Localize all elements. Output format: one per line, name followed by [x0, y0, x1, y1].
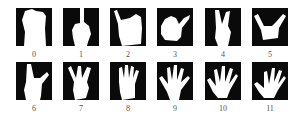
gesture-7	[63, 62, 99, 100]
gesture-label: 10	[205, 105, 241, 113]
gesture-label: 8	[110, 105, 146, 113]
gesture-3	[157, 8, 193, 46]
gesture-0	[16, 8, 52, 46]
hand-open-tilted-icon	[252, 62, 288, 100]
hand-thumb-pinky-icon	[252, 8, 288, 46]
gesture-label: 6	[16, 105, 52, 113]
gesture-1	[63, 8, 99, 46]
gesture-9	[157, 62, 193, 100]
gesture-label: 2	[110, 51, 146, 59]
hand-thumb-angled-icon	[110, 8, 146, 46]
gesture-8	[110, 62, 146, 100]
hand-three-fingers-icon	[63, 62, 99, 100]
gesture-label: 1	[63, 51, 99, 59]
gesture-2	[110, 8, 146, 46]
hand-open-spread-icon	[205, 62, 241, 100]
gesture-label: 0	[16, 51, 52, 59]
hand-fist-icon	[16, 8, 52, 46]
gesture-label: 11	[252, 105, 288, 113]
gesture-label: 3	[157, 51, 193, 59]
gesture-label: 5	[252, 51, 288, 59]
gesture-11	[252, 62, 288, 100]
hand-thumb-side-icon	[157, 8, 193, 46]
hand-four-fingers-icon	[110, 62, 146, 100]
gesture-5	[252, 8, 288, 46]
hand-open-icon	[157, 62, 193, 100]
gesture-10	[205, 62, 241, 100]
gesture-label: 9	[157, 105, 193, 113]
gesture-4	[205, 8, 241, 46]
hand-one-finger-icon	[63, 8, 99, 46]
gesture-6	[16, 62, 52, 100]
hand-thumb-index-icon	[16, 62, 52, 100]
gesture-label: 7	[63, 105, 99, 113]
hand-two-fingers-icon	[205, 8, 241, 46]
gesture-label: 4	[205, 51, 241, 59]
